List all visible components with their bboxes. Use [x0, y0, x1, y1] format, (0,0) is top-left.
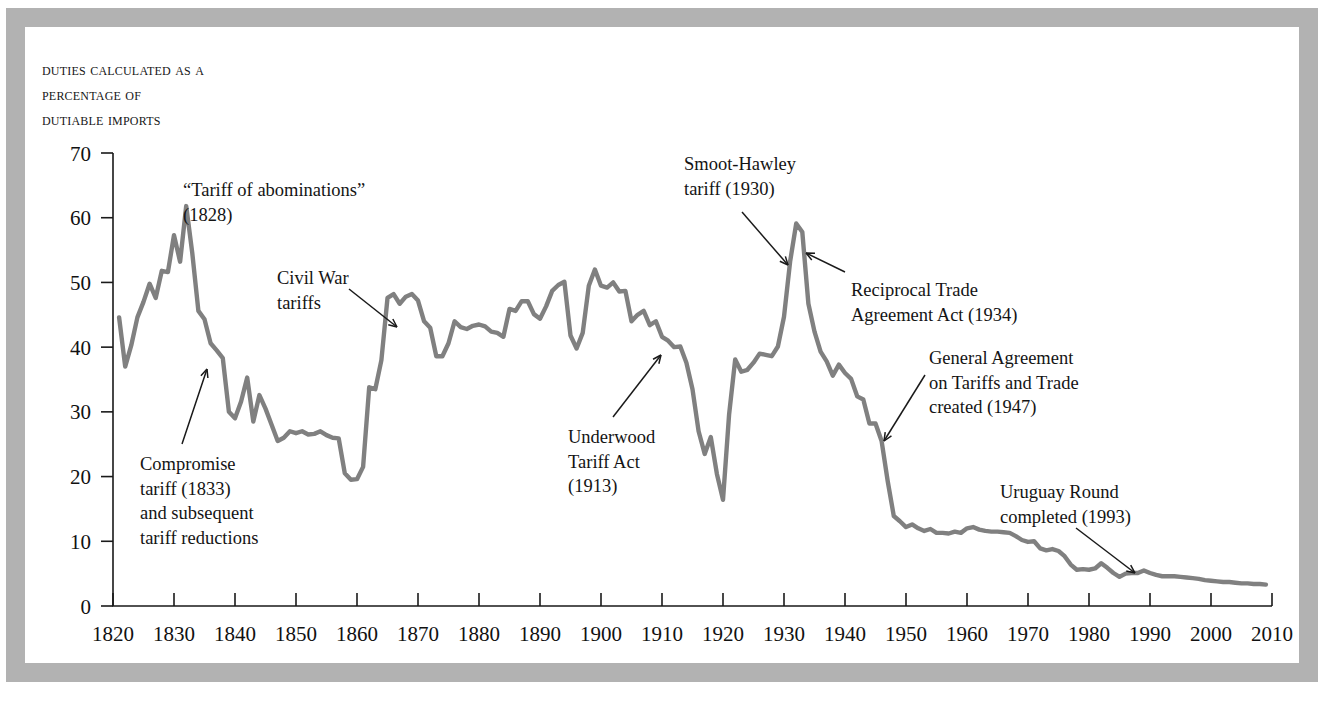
- annotation-line: Uruguay Round: [1000, 480, 1131, 505]
- x-tick-label: 1980: [1068, 622, 1110, 646]
- y-axis: 010203040506070: [70, 142, 113, 619]
- x-tick-label: 1890: [519, 622, 561, 646]
- chart-plot-area: 010203040506070 182018301840185018601870…: [0, 0, 1326, 701]
- leader-gatt: [884, 375, 925, 441]
- x-tick-label: 1840: [214, 622, 256, 646]
- annotation-line: Civil War: [277, 266, 349, 291]
- x-tick-label: 1830: [153, 622, 195, 646]
- x-tick-label: 1950: [885, 622, 927, 646]
- y-tick-label: 60: [70, 206, 91, 230]
- x-tick-label: 1960: [946, 622, 988, 646]
- x-tick-label: 1860: [336, 622, 378, 646]
- y-tick-label: 50: [70, 271, 91, 295]
- x-tick-label: 1900: [580, 622, 622, 646]
- annotation-line: Tariff Act: [568, 450, 655, 475]
- annotation-compromise-tariff: Compromise tariff (1833) and subsequent …: [140, 452, 258, 550]
- tariff-rate-chart-figure: Duties calculated as a percentage of dut…: [0, 0, 1326, 701]
- annotation-line: (1828): [183, 203, 365, 228]
- annotation-tariff-of-abominations: “Tariff of abominations” (1828): [183, 178, 365, 227]
- annotation-line: General Agreement: [929, 346, 1079, 371]
- x-tick-label: 1970: [1007, 622, 1049, 646]
- x-tick-label: 1870: [397, 622, 439, 646]
- annotation-underwood-tariff-act: Underwood Tariff Act (1913): [568, 425, 655, 499]
- annotation-civil-war-tariffs: Civil War tariffs: [277, 266, 349, 315]
- leader-compromise-tariff: [182, 369, 208, 444]
- x-tick-label: 1850: [275, 622, 317, 646]
- annotation-line: tariff (1930): [684, 177, 796, 202]
- annotation-reciprocal-trade-agreement-act: Reciprocal Trade Agreement Act (1934): [851, 278, 1017, 327]
- x-tick-label: 2010: [1251, 622, 1293, 646]
- annotation-line: completed (1993): [1000, 505, 1131, 530]
- annotation-line: Compromise: [140, 452, 258, 477]
- leader-reciprocal-trade: [806, 253, 845, 272]
- y-tick-label: 70: [70, 142, 91, 166]
- annotation-line: on Tariffs and Trade: [929, 371, 1079, 396]
- x-tick-label: 1930: [763, 622, 805, 646]
- x-tick-label: 1880: [458, 622, 500, 646]
- annotation-line: Reciprocal Trade: [851, 278, 1017, 303]
- annotation-line: “Tariff of abominations”: [183, 178, 365, 203]
- y-tick-label: 30: [70, 400, 91, 424]
- x-tick-label: 1820: [92, 622, 134, 646]
- annotation-general-agreement-tariffs-trade: General Agreement on Tariffs and Trade c…: [929, 346, 1079, 420]
- annotation-line: Underwood: [568, 425, 655, 450]
- x-tick-label: 1910: [641, 622, 683, 646]
- x-tick-label: 1990: [1129, 622, 1171, 646]
- x-axis: 1820183018401850186018701880189019001910…: [92, 593, 1293, 646]
- annotation-line: Smoot-Hawley: [684, 152, 796, 177]
- annotation-uruguay-round: Uruguay Round completed (1993): [1000, 480, 1131, 529]
- x-tick-label: 1940: [824, 622, 866, 646]
- annotation-line: tariff reductions: [140, 526, 258, 551]
- x-tick-label: 1920: [702, 622, 744, 646]
- annotation-line: tariffs: [277, 291, 349, 316]
- leader-smoot-hawley-tariff: [742, 212, 788, 265]
- annotation-line: Agreement Act (1934): [851, 303, 1017, 328]
- leader-underwood-tariff-act: [613, 355, 661, 417]
- annotation-smoot-hawley-tariff: Smoot-Hawley tariff (1930): [684, 152, 796, 201]
- y-tick-label: 40: [70, 336, 91, 360]
- annotation-line: created (1947): [929, 395, 1079, 420]
- annotation-line: and subsequent: [140, 501, 258, 526]
- y-tick-label: 20: [70, 465, 91, 489]
- annotation-line: tariff (1833): [140, 477, 258, 502]
- y-tick-label: 10: [70, 530, 91, 554]
- arrow-head-icon: [884, 432, 891, 441]
- x-tick-label: 2000: [1190, 622, 1232, 646]
- y-tick-label: 0: [81, 595, 92, 619]
- annotation-line: (1913): [568, 474, 655, 499]
